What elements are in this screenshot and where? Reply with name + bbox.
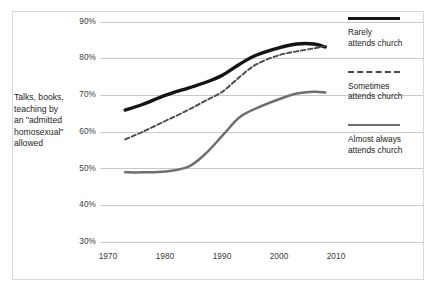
caption-line-3: an "admitted bbox=[14, 115, 94, 127]
legend-label-line1: Sometimes bbox=[348, 81, 428, 92]
x-tick-label: 1970 bbox=[86, 252, 130, 261]
y-tick-label: 40% bbox=[62, 200, 96, 209]
y-tick-label: 50% bbox=[62, 164, 96, 173]
y-tick-label: 80% bbox=[62, 53, 96, 62]
legend-label-line2: attends church bbox=[348, 38, 428, 49]
y-axis-caption: Talks, books, teaching by an "admitted h… bbox=[14, 92, 94, 150]
thick-solid-black-line-icon bbox=[348, 14, 428, 23]
y-tick-label: 90% bbox=[62, 17, 96, 26]
legend-label-line2: attends church bbox=[348, 91, 428, 102]
solid-gray-line-icon bbox=[348, 121, 428, 130]
legend-label-line1: Rarely bbox=[348, 27, 428, 38]
caption-line-5: allowed bbox=[14, 138, 94, 150]
dashed-gray-line-icon bbox=[348, 68, 428, 77]
chart-figure: Talks, books, teaching by an "admitted h… bbox=[0, 0, 437, 292]
y-tick-label: 70% bbox=[62, 90, 96, 99]
legend-item-rarely: Rarely attends church bbox=[348, 14, 428, 48]
x-tick-label: 2010 bbox=[314, 252, 358, 261]
legend-item-sometimes: Sometimes attends church bbox=[348, 68, 428, 102]
chart-legend: Rarely attends church Sometimes attends … bbox=[348, 14, 428, 175]
y-tick-label: 60% bbox=[62, 127, 96, 136]
x-tick-label: 1980 bbox=[143, 252, 187, 261]
x-tick-label: 2000 bbox=[257, 252, 301, 261]
y-tick-label: 30% bbox=[62, 237, 96, 246]
x-tick-label: 1990 bbox=[200, 252, 244, 261]
legend-item-almost-always: Almost always attends church bbox=[348, 121, 428, 155]
legend-label-line1: Almost always bbox=[348, 134, 428, 145]
legend-label-line2: attends church bbox=[348, 145, 428, 156]
caption-line-2: teaching by bbox=[14, 104, 94, 116]
